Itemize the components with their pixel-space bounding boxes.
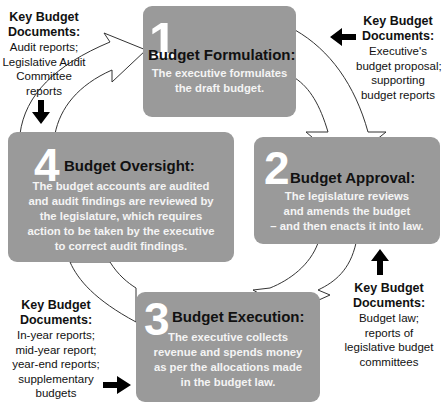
stage-title: Budget Approval: <box>290 169 415 186</box>
key-documents-stage-4: Key Budget Documents: Audit reports; Leg… <box>2 10 86 98</box>
stage-number: 2 <box>264 145 290 191</box>
key-documents-stage-2: Key Budget Documents: Budget law; report… <box>335 281 443 369</box>
stage-4-box: 4 Budget Oversight: The budget accounts … <box>8 132 234 262</box>
arrow-left-icon <box>330 28 356 46</box>
arrow-down-icon <box>32 100 50 124</box>
stage-description: The executive formulates the draft budge… <box>143 66 296 96</box>
stage-description: The executive collects revenue and spend… <box>136 330 320 390</box>
stage-2-box: 2 Budget Approval: The legislature revie… <box>254 137 440 244</box>
stage-title: Budget Formulation: <box>148 46 295 63</box>
stage-title: Budget Execution: <box>172 308 305 325</box>
stage-title: Budget Oversight: <box>64 157 195 174</box>
stage-description: The legislature reviews and amends the b… <box>254 189 440 234</box>
key-documents-stage-3: Key Budget Documents: In-year reports; m… <box>2 298 110 401</box>
arrow-right-icon <box>103 376 131 394</box>
stage-1-box: 1 Budget Formulation: The executive form… <box>143 6 296 117</box>
stage-3-box: 3 Budget Execution: The executive collec… <box>136 292 320 402</box>
key-documents-stage-1: Key Budget Documents: Executive's budget… <box>356 14 440 102</box>
stage-description: The budget accounts are audited and audi… <box>8 179 234 254</box>
arrow-up-icon <box>371 249 389 275</box>
